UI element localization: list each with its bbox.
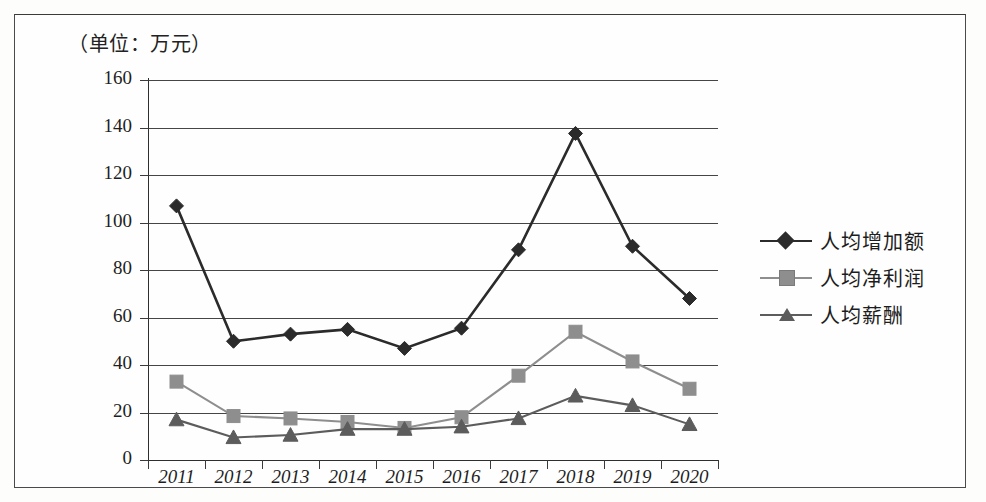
y-axis-label: 100 [72,210,132,232]
chart-legend: 人均增加额 人均净利润 人均薪酬 [760,222,950,333]
data-point-square [569,325,582,338]
legend-item-2: 人均薪酬 [760,296,950,333]
y-axis-tick [140,365,149,366]
legend-item-0: 人均增加额 [760,222,950,259]
y-axis-tick [140,270,149,271]
legend-marker-square-icon [760,270,812,286]
y-axis-label: 0 [72,447,132,469]
data-point-square [512,369,525,382]
series-line [177,133,690,348]
legend-marker-diamond-icon [760,233,812,249]
y-axis-label: 140 [72,115,132,137]
legend-marker-triangle-icon [760,307,812,323]
y-axis-tick [140,318,149,319]
data-point-diamond [227,334,241,348]
data-point-diamond [398,341,412,355]
x-axis-label: 2020 [655,466,725,488]
y-axis-label: 120 [72,162,132,184]
data-point-square [284,412,297,425]
data-point-triangle [169,412,184,426]
data-point-diamond [170,199,184,213]
data-point-triangle [568,388,583,402]
y-axis-tick [140,413,149,414]
data-point-diamond [341,322,355,336]
y-axis-label: 60 [72,305,132,327]
legend-label-1: 人均净利润 [812,263,925,292]
data-point-square [170,375,183,388]
data-point-diamond [284,327,298,341]
data-point-diamond [569,126,583,140]
y-axis-label: 160 [72,67,132,89]
series-1 [170,325,696,434]
series-line [177,332,690,428]
legend-label-0: 人均增加额 [812,226,925,255]
legend-label-2: 人均薪酬 [812,300,904,329]
chart-figure: （单位：万元） 人均增加额 人均净利润 人均薪酬 1601401201008 [0,0,986,502]
y-axis-tick [140,128,149,129]
data-point-square [227,410,240,423]
legend-item-1: 人均净利润 [760,259,950,296]
data-point-square [626,355,639,368]
y-axis-label: 80 [72,257,132,279]
y-axis-tick [140,175,149,176]
y-axis-label: 20 [72,400,132,422]
data-point-square [683,382,696,395]
series-0 [170,126,697,355]
y-axis-tick [140,80,149,81]
y-axis-tick [140,223,149,224]
y-axis-label: 40 [72,352,132,374]
data-point-triangle [511,411,526,425]
